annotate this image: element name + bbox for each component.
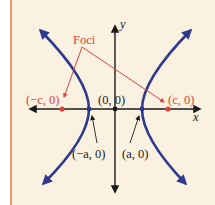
origin-point [113, 107, 118, 112]
left-focus-label: (−c, 0) [26, 93, 59, 107]
foci-label: Foci [73, 33, 96, 47]
foci-pointer-left [64, 47, 82, 97]
right-vertex-pointer [130, 116, 139, 143]
left-focus-point [59, 106, 64, 111]
left-vertex-label: (−a, 0) [72, 147, 105, 161]
right-focus-label: (c, 0) [168, 93, 194, 107]
y-axis-label: y [118, 17, 126, 31]
origin-label: (0, 0) [98, 93, 125, 107]
right-branch [142, 31, 190, 183]
right-vertex-point [140, 107, 145, 112]
left-vertex-pointer [92, 116, 97, 143]
hyperbola-diagram: Foci (−c, 0) (c, 0) (0, 0) (−a, 0) (a, 0… [0, 0, 215, 205]
right-vertex-label: (a, 0) [122, 147, 148, 161]
right-focus-point [165, 106, 170, 111]
left-vertex-point [87, 107, 92, 112]
x-axis-label: x [192, 110, 199, 124]
